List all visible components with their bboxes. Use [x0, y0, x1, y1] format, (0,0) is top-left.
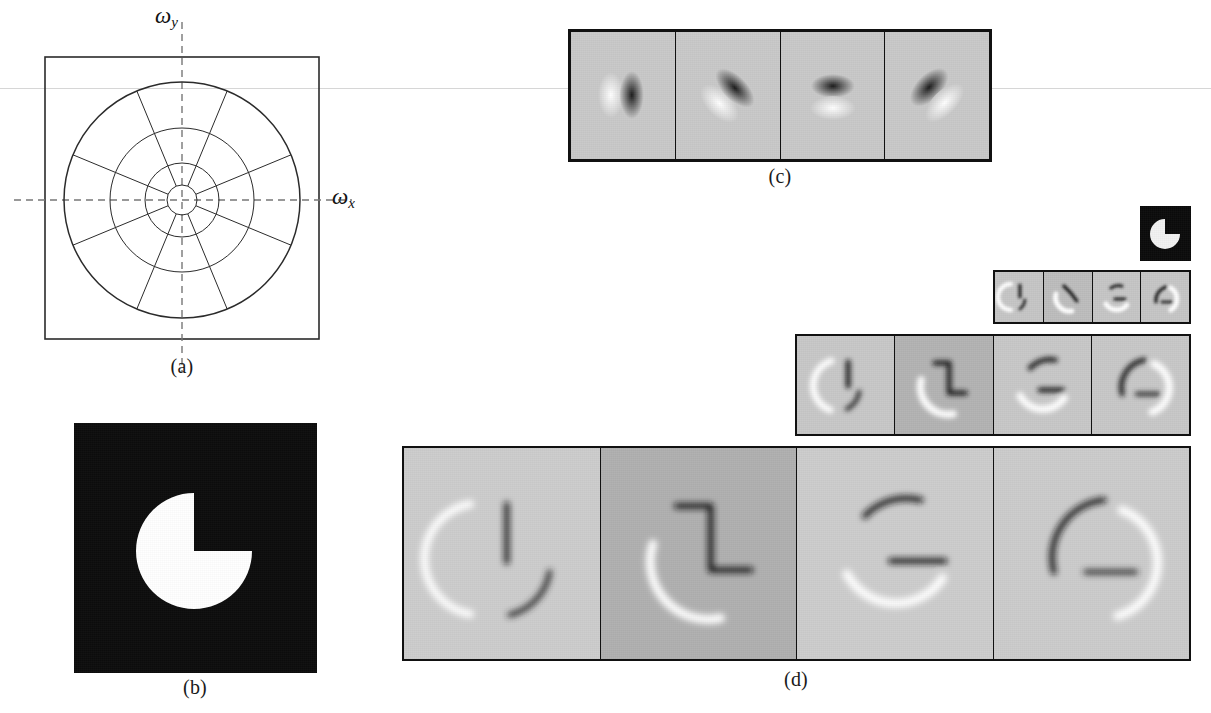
panel-d-row-scale-3 — [402, 446, 1191, 661]
panel-d-s1-tile-90deg — [1092, 272, 1141, 322]
panel-d-s3-tile-0deg — [404, 448, 600, 659]
panel-c-tile-45deg — [675, 32, 780, 159]
panel-d-row-scale-1 — [993, 270, 1191, 324]
panel-d-s1-tile-45deg — [1043, 272, 1092, 322]
panel-c-filter-row — [568, 29, 992, 162]
figure-root: ωy ωx (a) (b) — [0, 0, 1211, 713]
panel-d-row-scale-2 — [795, 334, 1191, 436]
panel-a-caption: (a) — [132, 355, 232, 378]
panel-d-s2-tile-90deg — [993, 336, 1091, 434]
panel-b-pacman-shape — [74, 423, 317, 673]
panel-a-polar-tiling — [0, 0, 420, 400]
panel-a-omega-x-label: ωx — [332, 184, 355, 210]
panel-b-caption: (b) — [145, 676, 245, 699]
panel-c-tile-0deg — [571, 32, 675, 159]
panel-d-s1-tile-135deg — [1140, 272, 1189, 322]
panel-b-pacman-image — [74, 423, 317, 673]
panel-d-lowpass-thumbnail — [1140, 206, 1191, 261]
panel-c-tile-90deg — [780, 32, 885, 159]
panel-d-s2-tile-135deg — [1091, 336, 1189, 434]
panel-d-caption: (d) — [746, 668, 846, 691]
panel-d-s3-tile-135deg — [993, 448, 1190, 659]
panel-d-s2-tile-45deg — [894, 336, 992, 434]
panel-c-tile-135deg — [884, 32, 989, 159]
panel-d-s2-tile-0deg — [797, 336, 894, 434]
panel-d-s3-tile-45deg — [600, 448, 797, 659]
panel-a-omega-y-label: ωy — [155, 3, 178, 29]
panel-c-caption: (c) — [730, 165, 830, 188]
panel-d-s1-tile-0deg — [995, 272, 1043, 322]
panel-d-s3-tile-90deg — [796, 448, 993, 659]
